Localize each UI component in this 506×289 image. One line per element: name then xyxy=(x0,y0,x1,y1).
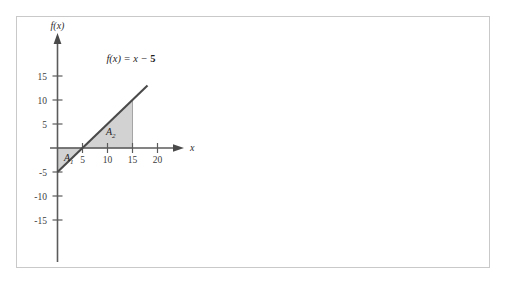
function-equation-constant: 5 xyxy=(150,53,155,64)
y-tick-label-neg15: -15 xyxy=(34,216,47,226)
y-tick-label-neg10: -10 xyxy=(34,192,47,202)
x-tick-label-10: 10 xyxy=(103,155,113,165)
y-axis-arrow-icon xyxy=(54,33,62,44)
function-equation-prefix: f(x) = x − xyxy=(106,53,150,65)
figure-root: 5 10 15 20 15 10 5 -5 -10 -15 f(x) x f(x… xyxy=(0,0,506,289)
function-equation-label: f(x) = x − 5 xyxy=(106,53,155,65)
function-plot: 5 10 15 20 15 10 5 -5 -10 -15 f(x) x f(x… xyxy=(0,0,506,289)
y-tick-label-10: 10 xyxy=(38,96,48,106)
y-tick-label-neg5: -5 xyxy=(39,168,47,178)
x-tick-label-20: 20 xyxy=(153,155,163,165)
region-label-a2-subscript: 2 xyxy=(112,132,116,140)
x-axis-arrow-icon xyxy=(173,144,184,152)
y-axis-title: f(x) xyxy=(51,20,66,32)
y-tick-label-5: 5 xyxy=(42,120,47,130)
region-label-a1-subscript: 1 xyxy=(70,158,74,166)
y-tick-label-15: 15 xyxy=(38,72,48,82)
x-axis-title: x xyxy=(189,142,195,153)
x-tick-label-5: 5 xyxy=(80,155,85,165)
x-tick-label-15: 15 xyxy=(128,155,138,165)
